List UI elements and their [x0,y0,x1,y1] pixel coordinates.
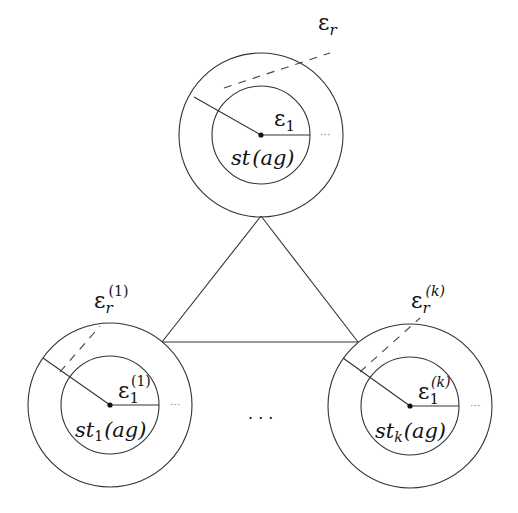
edge-top-right [261,216,358,342]
outer-epsilon-label: εr(k) [411,283,445,317]
state-label: stk(ag) [375,419,446,445]
outer-radius-dashed [60,326,100,372]
top-node: εr ε1 st(ag) ··· [179,10,343,217]
inner-epsilon-label: ε1(1) [118,373,151,407]
outer-epsilon-label: εr [318,10,337,39]
edge-top-left [162,216,261,342]
center-point [107,402,112,407]
outer-radius-line [343,358,410,406]
outer-radius-line [194,97,261,135]
between-nodes-ellipsis: · · · [248,409,273,428]
right-node: εr(k) ε1(k) stk(ag) ··· [328,283,492,488]
diagram-canvas: εr ε1 st(ag) ··· εr(1) ε1(1) st1(ag) ··· [0,0,518,513]
outer-radius-line [43,358,110,405]
inner-epsilon-label: ε1 [274,106,295,135]
ellipsis: ··· [470,400,481,413]
center-point [258,132,263,137]
outer-epsilon-label: εr(1) [94,283,128,317]
inner-epsilon-label: ε1(k) [418,374,450,408]
outer-radius-dashed [224,53,330,88]
connection-triangle [162,216,358,342]
ellipsis: ··· [320,129,331,142]
left-node: εr(1) ε1(1) st1(ag) ··· [28,283,192,487]
center-point [407,403,412,408]
ellipsis: ··· [170,399,181,412]
state-label: st1(ag) [75,418,147,444]
state-label: st(ag) [231,146,295,170]
